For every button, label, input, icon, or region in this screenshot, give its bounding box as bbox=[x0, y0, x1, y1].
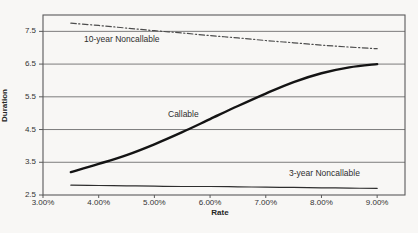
x-tick-label-4.00%: 4.00% bbox=[87, 198, 110, 207]
series-line-callable bbox=[71, 64, 377, 172]
x-tick-label-5.00%: 5.00% bbox=[143, 198, 166, 207]
y-axis-title: Duration bbox=[0, 84, 9, 128]
x-tick-label-3.00%: 3.00% bbox=[32, 198, 55, 207]
y-tick-label-6.5: 6.5 bbox=[25, 59, 36, 68]
y-tick-label-4.5: 4.5 bbox=[25, 125, 36, 134]
x-tick-label-8.00%: 8.00% bbox=[310, 198, 333, 207]
series-label-3-year-noncallable: 3-year Noncallable bbox=[289, 168, 360, 178]
y-tick-label-5.5: 5.5 bbox=[25, 92, 36, 101]
series-label-callable: Callable bbox=[168, 109, 199, 119]
x-tick-label-9.00%: 9.00% bbox=[366, 198, 389, 207]
series-label-10-year-noncallable: 10-year Noncallable bbox=[84, 34, 160, 44]
y-tick-label-7.5: 7.5 bbox=[25, 26, 36, 35]
x-tick-label-7.00%: 7.00% bbox=[254, 198, 277, 207]
x-axis-title: Rate bbox=[180, 208, 260, 217]
duration-vs-rate-chart: Duration Rate 10-year Noncallable Callab… bbox=[0, 0, 418, 233]
series-line-3-year-noncallable bbox=[71, 185, 377, 188]
y-tick-label-3.5: 3.5 bbox=[25, 157, 36, 166]
x-tick-label-6.00%: 6.00% bbox=[199, 198, 222, 207]
